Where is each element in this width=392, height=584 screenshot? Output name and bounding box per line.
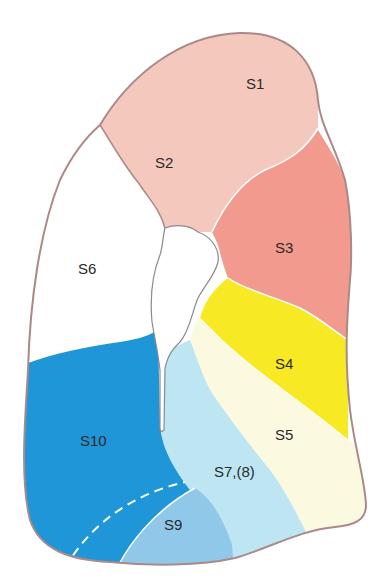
label-s7-8: S7,(8) (214, 463, 255, 480)
label-s10: S10 (80, 432, 107, 449)
label-s5: S5 (275, 426, 293, 443)
label-s4: S4 (275, 355, 293, 372)
label-s9: S9 (164, 516, 182, 533)
label-s3: S3 (275, 239, 293, 256)
label-s2: S2 (155, 154, 173, 171)
lung-segment-diagram: S1 S2 S3 S4 S5 S6 S7,(8) S9 S10 (0, 0, 392, 584)
label-s6: S6 (78, 260, 96, 277)
label-s1: S1 (246, 75, 264, 92)
